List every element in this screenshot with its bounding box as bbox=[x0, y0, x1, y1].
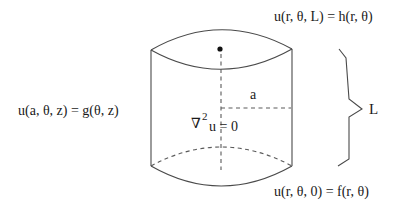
laplace-rest: u = 0 bbox=[209, 119, 238, 134]
laplace-nabla: ∇ bbox=[191, 116, 201, 131]
top-boundary-label: u(r, θ, L) = h(r, θ) bbox=[274, 9, 373, 25]
cylinder-diagram: u(r, θ, L) = h(r, θ) u(a, θ, z) = g(θ, z… bbox=[0, 0, 406, 207]
laplace-exponent: 2 bbox=[202, 110, 208, 122]
side-boundary-label: u(a, θ, z) = g(θ, z) bbox=[18, 103, 119, 119]
cylinder-bottom-back-arc bbox=[151, 147, 292, 166]
radius-label: a bbox=[250, 87, 257, 102]
length-brace bbox=[338, 49, 362, 166]
cylinder-top-lower-arc bbox=[151, 49, 292, 69]
length-label: L bbox=[369, 101, 378, 117]
bottom-boundary-label: u(r, θ, 0) = f(r, θ) bbox=[274, 184, 369, 200]
center-dot bbox=[217, 46, 222, 51]
